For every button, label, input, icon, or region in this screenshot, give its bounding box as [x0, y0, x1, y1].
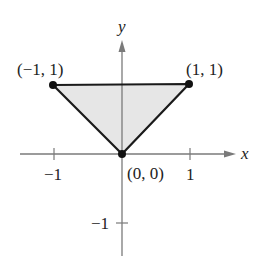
vertex-label-1-1: (1, 1) [186, 60, 223, 79]
vertex-label-origin: (0, 0) [127, 164, 164, 183]
x-tick-label-1: 1 [186, 165, 195, 184]
shaded-triangle-region [53, 84, 189, 154]
vertex-point-origin [118, 150, 126, 158]
vertex-point-1-1 [185, 80, 193, 88]
y-axis-arrow-icon [119, 40, 126, 52]
x-axis-arrow-icon [224, 151, 236, 158]
coordinate-plane: y x −1 1 −1 (−1, 1) (1, 1) (0, 0) [0, 0, 263, 257]
x-tick-label-neg1: −1 [44, 165, 62, 184]
x-axis-label: x [240, 144, 249, 163]
vertex-point-neg1-1 [49, 81, 57, 89]
y-tick-label-neg1: −1 [91, 214, 109, 233]
y-axis-label: y [116, 17, 126, 36]
vertex-label-neg1-1: (−1, 1) [17, 60, 63, 79]
